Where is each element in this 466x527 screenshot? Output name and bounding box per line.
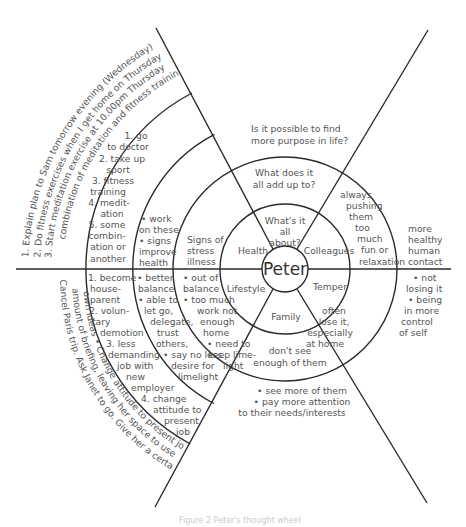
ll-opt-2: house- xyxy=(90,283,121,294)
outer-right-lower-1: • not xyxy=(413,272,437,283)
outer-right-upper-2: healthy xyxy=(408,234,443,245)
ul-inner-3: • signs xyxy=(139,235,171,246)
ul-opt-3: 2. take up xyxy=(99,153,145,164)
ll-inner-6: trust xyxy=(157,327,179,338)
outer-right-upper-4: contact xyxy=(408,256,443,267)
outer-right-lower-3: • being xyxy=(408,294,442,305)
middle-ur-2: pushing xyxy=(346,200,382,211)
middle-lr-4: at home xyxy=(306,338,345,349)
inner-upper-left: Health xyxy=(238,245,268,256)
middle-ll-5: enough xyxy=(200,316,235,327)
outer-bottom-3: to their needs/interests xyxy=(238,407,346,418)
outer-top-2: more purpose in life? xyxy=(251,135,348,146)
figure-caption: Figure 2 Peter's thought wheel xyxy=(179,516,301,525)
middle-ll-7: • need to xyxy=(207,338,251,349)
ul-inner-2: on these xyxy=(139,224,179,235)
ul-opt-12: another xyxy=(90,253,126,264)
ll-opt-3: parent xyxy=(90,294,121,305)
outer-right-lower-4: in more xyxy=(404,305,439,316)
thought-wheel-diagram: Peter What's it all about? Health Collea… xyxy=(0,0,466,527)
ll-inner-5: delegate, xyxy=(150,316,193,327)
ll-opt-7: 3. less xyxy=(106,338,136,349)
inner-top-line-3: about? xyxy=(269,237,301,248)
ll-inner-10: limelight xyxy=(178,371,218,382)
middle-ll-1: • out of xyxy=(183,272,219,283)
ll-inner-9: desire for xyxy=(171,360,215,371)
middle-top-2: all add up to? xyxy=(253,179,316,190)
middle-ll-6: home xyxy=(203,327,229,338)
ll-opt-9: job with xyxy=(116,360,154,371)
middle-ll-3: • too much xyxy=(183,294,235,305)
ll-opt-12: 4. change xyxy=(141,393,187,404)
ll-opt-14: present xyxy=(164,415,199,426)
ul-opt-6: training xyxy=(90,186,126,197)
middle-ur-6: fun or xyxy=(361,244,388,255)
ul-opt-8: ation xyxy=(100,208,123,219)
outer-right-upper-3: human xyxy=(408,245,440,256)
ul-inner-1: • work xyxy=(141,213,172,224)
middle-ur-5: much xyxy=(357,233,383,244)
inner-top-line-1: What's it xyxy=(265,215,306,226)
outer-right-upper-1: more xyxy=(408,223,432,234)
middle-bottom-1: don't see xyxy=(269,345,312,356)
ll-opt-6: demotion xyxy=(100,327,144,338)
middle-ur-7: relaxation xyxy=(359,256,405,267)
middle-ll-4: work not xyxy=(197,305,238,316)
outer-bottom-1: • see more of them xyxy=(257,385,347,396)
ul-inner-4: improve xyxy=(139,246,177,257)
inner-bottom: Family xyxy=(271,311,301,322)
middle-lr-2: lose it, xyxy=(319,316,350,327)
inner-lower-right: Temper xyxy=(312,281,347,292)
ll-opt-8: demanding xyxy=(108,349,160,360)
outer-right-lower-2: losing it xyxy=(406,283,443,294)
ul-opt-1: 1. go xyxy=(124,130,148,141)
ll-opt-11: employer xyxy=(131,382,175,393)
center-label: Peter xyxy=(263,259,307,279)
ll-inner-1: • better xyxy=(137,272,174,283)
ll-inner-2: balance xyxy=(138,283,175,294)
ul-opt-10: combin- xyxy=(88,230,125,241)
inner-upper-right: Colleagues xyxy=(304,245,355,256)
middle-lr-3: especially xyxy=(307,327,353,338)
outer-right-lower-6: of self xyxy=(399,327,428,338)
ll-inner-7: others, xyxy=(156,338,188,349)
ll-opt-10: new xyxy=(126,371,145,382)
ul-opt-7: 4. medit- xyxy=(88,197,130,208)
middle-ul-1: Signs of xyxy=(187,234,224,245)
outer-top-1: Is it possible to find xyxy=(251,123,341,134)
middle-ll-9: light xyxy=(223,360,244,371)
ll-inner-3: • able to xyxy=(138,294,179,305)
ul-opt-9: 5. some xyxy=(89,219,126,230)
inner-lower-left: Lifestyle xyxy=(227,283,266,294)
ul-opt-4: sport xyxy=(106,164,130,175)
ul-opt-2: to doctor xyxy=(107,141,149,152)
outer-right-lower-5: control xyxy=(401,316,433,327)
middle-top-1: What does it xyxy=(255,167,313,178)
inner-top-line-2: all xyxy=(280,226,291,237)
ul-opt-11: ation or xyxy=(90,241,126,252)
ll-inner-4: let go, xyxy=(144,305,173,316)
ul-inner-5: health xyxy=(139,257,168,268)
outer-bottom-2: • pay more attention xyxy=(254,396,351,407)
ul-opt-5: 3. fitness xyxy=(92,175,134,186)
ll-opt-13: attitude to xyxy=(153,404,202,415)
middle-ur-3: them xyxy=(349,211,373,222)
middle-ul-2: stress xyxy=(187,245,214,256)
middle-bottom-2: enough of them xyxy=(253,357,326,368)
ll-opt-1: 1. become xyxy=(88,272,137,283)
middle-ur-1: always xyxy=(340,189,372,200)
middle-ll-2: balance xyxy=(183,283,220,294)
middle-ur-4: too xyxy=(355,222,370,233)
ll-opt-15: job xyxy=(175,426,190,437)
ll-inner-8: • say no less xyxy=(163,349,222,360)
middle-ul-3: illness xyxy=(187,256,216,267)
middle-lr-1: often xyxy=(322,305,346,316)
